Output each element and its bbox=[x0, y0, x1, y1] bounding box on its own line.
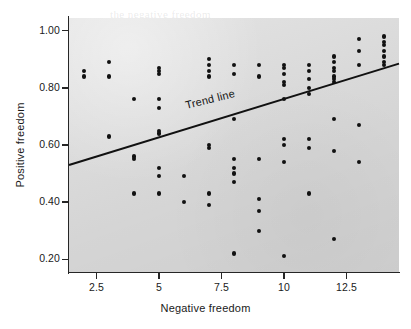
x-axis-spine bbox=[68, 272, 400, 273]
y-tick-0.20 bbox=[62, 259, 69, 260]
x-tick-label-5: 5 bbox=[156, 281, 162, 293]
y-tick-label-0.40: 0.40 bbox=[39, 196, 60, 207]
y-axis-title: Positive freedom bbox=[10, 0, 30, 290]
y-tick-label-0.60: 0.60 bbox=[39, 139, 60, 150]
x-axis-title: Negative freedom bbox=[0, 302, 411, 314]
x-tick-label-7.5: 7.5 bbox=[214, 281, 229, 293]
x-tick-7.5 bbox=[221, 273, 222, 279]
y-tick-0.60 bbox=[62, 144, 69, 145]
x-tick-2.5 bbox=[96, 273, 97, 279]
scatter-plot-figure: the negative freedomdistribution ofposit… bbox=[0, 0, 411, 329]
x-tick-label-10: 10 bbox=[278, 281, 290, 293]
x-tick-label-12.5: 12.5 bbox=[336, 281, 357, 293]
x-tick-12.5 bbox=[346, 273, 347, 279]
x-tick-10 bbox=[283, 273, 284, 279]
y-tick-label-0.20: 0.20 bbox=[39, 253, 60, 264]
x-tick-label-2.5: 2.5 bbox=[89, 281, 104, 293]
y-axis-title-text: Positive freedom bbox=[14, 102, 26, 187]
y-tick-label-1.00: 1.00 bbox=[39, 25, 60, 36]
panel-texture bbox=[69, 18, 399, 272]
plot-panel bbox=[69, 18, 399, 272]
y-tick-label-0.80: 0.80 bbox=[39, 82, 60, 93]
y-tick-1.00 bbox=[62, 30, 69, 31]
x-tick-5 bbox=[158, 273, 159, 279]
y-tick-0.80 bbox=[62, 87, 69, 88]
y-tick-0.40 bbox=[62, 201, 69, 202]
